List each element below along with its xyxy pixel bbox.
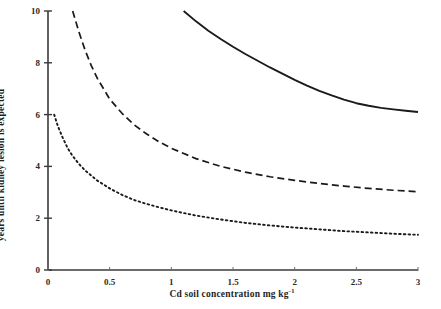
x-tick-label: 1 — [169, 277, 174, 287]
y-tick-label: 8 — [18, 58, 40, 68]
chart-figure: 024681000.511.522.53 Cd soil concentrati… — [0, 0, 441, 309]
y-axis-label: years until kidney lesion is expected — [0, 89, 6, 241]
series-upper-curve — [184, 11, 418, 112]
axes — [48, 11, 418, 270]
x-axis-label-superscript: -1 — [289, 287, 295, 294]
y-tick-label: 2 — [18, 213, 40, 223]
series-lower-curve — [54, 115, 418, 235]
y-tick-label: 0 — [18, 265, 40, 275]
x-tick-label: 0.5 — [104, 277, 115, 287]
y-tick-label: 10 — [18, 6, 40, 16]
y-tick-label: 6 — [18, 110, 40, 120]
y-tick-label: 4 — [18, 161, 40, 171]
x-tick-label: 2.5 — [351, 277, 362, 287]
series-middle-curve — [73, 11, 418, 192]
x-axis-label: Cd soil concentration mg kg-1 — [169, 287, 294, 299]
x-tick-label: 2 — [292, 277, 297, 287]
x-tick-label: 0 — [46, 277, 51, 287]
x-tick-label: 3 — [416, 277, 421, 287]
data-series — [54, 11, 418, 235]
plot-canvas — [0, 0, 441, 309]
x-tick-label: 1.5 — [227, 277, 238, 287]
